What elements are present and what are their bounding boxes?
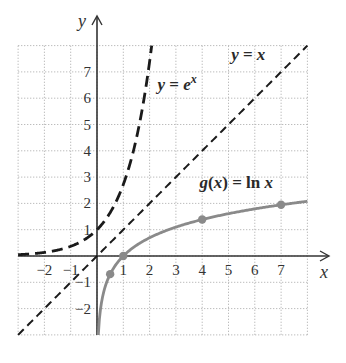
curve-labels: y = exy = xg(x) = ln x (155, 45, 273, 192)
y-tick-label: 4 (84, 143, 92, 159)
label-ln: g(x) = ln x (199, 173, 274, 192)
x-tick-label: 1 (120, 262, 128, 278)
x-tick-label: 3 (172, 262, 180, 278)
label-identity: y = x (229, 45, 266, 64)
y-tick-label: 2 (84, 195, 92, 211)
chart-canvas: −2−11234567−2−11234567 y = exy = xg(x) =… (0, 0, 346, 363)
x-tick-label: 6 (251, 262, 259, 278)
data-point (119, 252, 127, 260)
y-tick-label: 5 (84, 117, 92, 133)
x-tick-label: 7 (277, 262, 285, 278)
y-tick-label: −2 (75, 301, 91, 317)
label-exp: y = ex (155, 72, 196, 94)
x-tick-label: 5 (225, 262, 233, 278)
y-axis-label: y (76, 11, 86, 31)
data-point (106, 270, 114, 278)
x-tick-label: −2 (36, 262, 52, 278)
y-tick-label: 6 (84, 90, 92, 106)
y-tick-label: 3 (84, 169, 92, 185)
x-tick-label: 2 (146, 262, 154, 278)
y-tick-label: 7 (84, 64, 92, 80)
x-tick-label: 4 (198, 262, 206, 278)
x-axis-label: x (319, 262, 328, 282)
data-point (277, 201, 285, 209)
data-point (198, 215, 206, 223)
